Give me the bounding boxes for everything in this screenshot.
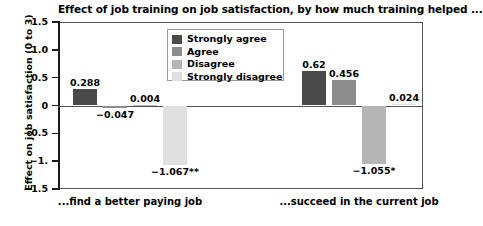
legend-swatch-strongly-disagree [172, 72, 182, 81]
bar[interactable] [362, 106, 386, 165]
y-tick-mark [52, 49, 60, 50]
bar[interactable] [73, 89, 97, 105]
y-tick-mark [52, 133, 60, 134]
y-tick-mark [52, 21, 60, 22]
legend-swatch-strongly-agree [172, 35, 182, 44]
legend-label-disagree: Disagree [187, 59, 235, 69]
bar-value-label: 0.024 [369, 92, 439, 103]
bar-value-label: 0.004 [110, 93, 180, 104]
legend-item-disagree[interactable]: Disagree [172, 58, 279, 70]
bar[interactable] [133, 105, 157, 106]
y-tick-label: 0 [8, 100, 48, 111]
bar-value-label: −1.055* [339, 165, 409, 176]
bar[interactable] [163, 106, 187, 165]
y-tick-label: 1.5 [8, 16, 48, 27]
y-tick-mark [52, 160, 60, 161]
chart-legend: Strongly agree Agree Disagree Strongly d… [167, 29, 284, 81]
chart-title: Effect of job training on job satisfacti… [58, 3, 435, 15]
bar-value-label: −1.067** [140, 166, 210, 177]
y-tick-mark [52, 188, 60, 189]
legend-swatch-agree [172, 47, 182, 56]
bar[interactable] [332, 80, 356, 105]
legend-item-agree[interactable]: Agree [172, 46, 279, 58]
x-category-label-1: ...succeed in the current job [249, 196, 469, 207]
bar-value-label: −0.047 [80, 109, 150, 120]
legend-label-strongly-disagree: Strongly disagree [187, 72, 282, 82]
bar-value-label: 0.456 [309, 68, 379, 79]
legend-item-strongly-agree[interactable]: Strongly agree [172, 33, 279, 45]
x-category-label-0: ...find a better paying job [20, 196, 240, 207]
y-tick-label: −1. [8, 155, 48, 166]
y-tick-label: −1.5 [8, 183, 48, 194]
legend-item-strongly-disagree[interactable]: Strongly disagree [172, 71, 279, 83]
y-tick-label: 0.5 [8, 72, 48, 83]
bar[interactable] [103, 106, 127, 109]
y-tick-label: −0.5 [8, 127, 48, 138]
y-tick-label: 1.0 [8, 44, 48, 55]
bar[interactable] [392, 104, 416, 105]
legend-swatch-disagree [172, 60, 182, 69]
legend-label-agree: Agree [187, 47, 219, 57]
legend-label-strongly-agree: Strongly agree [187, 34, 267, 44]
bar-value-label: 0.288 [50, 77, 120, 88]
